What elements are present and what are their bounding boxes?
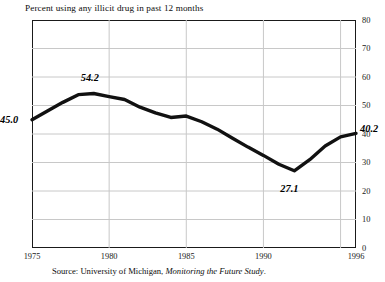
source-prefix: Source: University of Michigan, — [52, 266, 165, 276]
x-axis-tick-label: 1990 — [255, 252, 272, 262]
x-axis-tick-label: 1985 — [178, 252, 195, 262]
y-axis-tick-label: 80 — [362, 16, 370, 25]
source-note: Source: University of Michigan, Monitori… — [52, 266, 266, 277]
x-axis-tick-label: 1996 — [348, 252, 365, 262]
y-axis-tick-label: 50 — [362, 101, 370, 110]
source-publication: Monitoring the Future Study — [165, 266, 263, 276]
y-axis-tick-label: 30 — [362, 158, 370, 167]
x-axis-tick-label: 1980 — [101, 252, 118, 262]
x-axis-tick-label: 1975 — [24, 252, 41, 262]
y-axis-tick-label: 10 — [362, 215, 370, 224]
source-suffix: . — [264, 266, 266, 276]
y-axis-tick-label: 70 — [362, 44, 370, 53]
y-axis-tick-label: 60 — [362, 73, 370, 82]
chart-figure: Percent using any illicit drug in past 1… — [0, 0, 385, 282]
chart-title: Percent using any illicit drug in past 1… — [25, 2, 203, 14]
y-axis-tick-label: 20 — [362, 187, 370, 196]
data-label-40-2: 40.2 — [360, 123, 378, 134]
data-label-45-0: 45.0 — [0, 114, 18, 125]
chart-plot-svg — [32, 20, 356, 248]
data-label-54-2: 54.2 — [81, 72, 99, 83]
data-label-27-1: 27.1 — [280, 183, 298, 194]
